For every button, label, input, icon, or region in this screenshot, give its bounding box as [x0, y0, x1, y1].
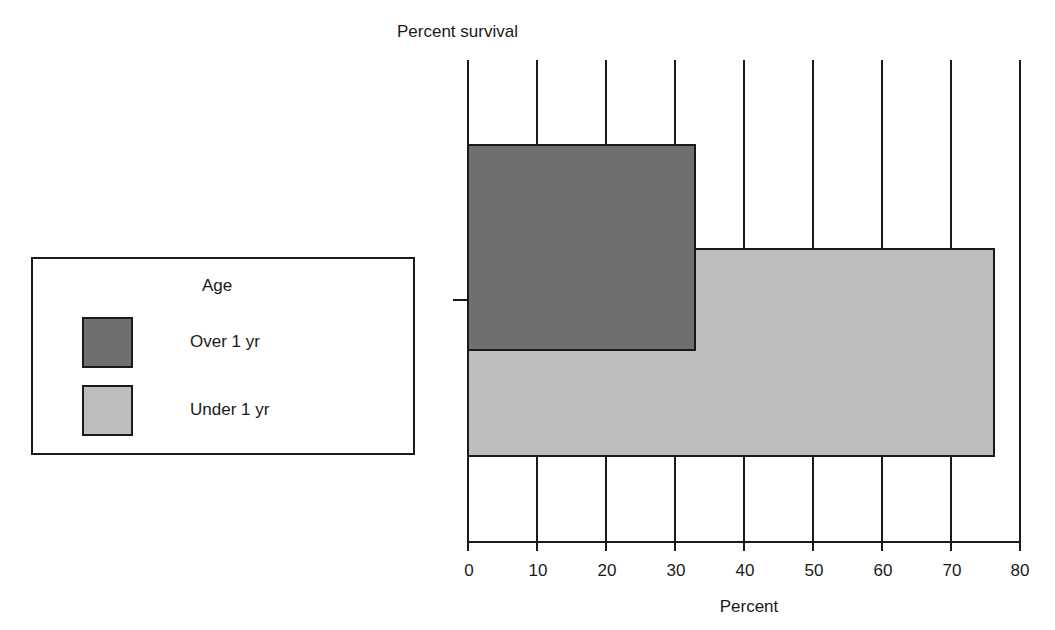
bar-over-1-yr: [468, 145, 695, 350]
x-axis-label: Percent: [720, 597, 779, 617]
x-tick-label: 70: [943, 561, 962, 581]
x-tick-label: 20: [598, 561, 617, 581]
legend: Age Over 1 yr Under 1 yr: [31, 257, 415, 455]
x-tick-label: 60: [874, 561, 893, 581]
x-tick-label: 10: [529, 561, 548, 581]
legend-label-over-1-yr: Over 1 yr: [190, 332, 260, 352]
legend-title: Age: [202, 276, 232, 296]
legend-label-under-1-yr: Under 1 yr: [190, 400, 269, 420]
legend-swatch-under-1-yr: [82, 385, 133, 436]
x-tick-label: 0: [464, 561, 473, 581]
x-tick-label: 40: [736, 561, 755, 581]
x-tick-label: 50: [805, 561, 824, 581]
legend-swatch-over-1-yr: [82, 317, 133, 368]
x-tick-label: 30: [667, 561, 686, 581]
x-tick-label: 80: [1011, 561, 1030, 581]
